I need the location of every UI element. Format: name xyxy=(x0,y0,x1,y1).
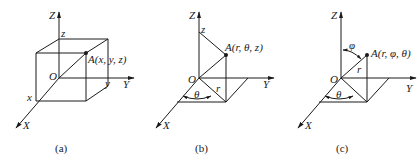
z-axis-label: Z xyxy=(331,9,338,21)
y-tick-label: y xyxy=(104,77,110,89)
caption-a: (a) xyxy=(55,142,68,155)
point-a-label: A(x, y, z) xyxy=(87,53,127,66)
point-a-label: A(r, φ, θ) xyxy=(370,47,411,60)
origin-label: O xyxy=(49,70,57,82)
phi-label: φ xyxy=(349,39,355,51)
point-a-marker xyxy=(224,53,228,57)
theta-label: θ xyxy=(194,88,200,100)
caption-c: (c) xyxy=(336,142,349,155)
phi-arc xyxy=(343,50,361,59)
y-axis-label: Y xyxy=(123,78,131,90)
z-tick-label: z xyxy=(200,23,206,35)
radius-label: r xyxy=(357,63,362,75)
z-axis-label: Z xyxy=(189,9,196,21)
panel-cylindrical: Z z A(r, θ, z) O r θ Y X (b) xyxy=(156,9,274,155)
position-vector xyxy=(59,53,86,78)
y-axis-label: Y xyxy=(406,82,414,94)
x-axis-label: X xyxy=(22,119,31,131)
origin-label: O xyxy=(188,73,196,85)
point-a-label: A(r, θ, z) xyxy=(224,41,263,54)
x-tick-label: x xyxy=(26,91,32,103)
theta-label: θ xyxy=(336,88,342,100)
z-axis-label: Z xyxy=(49,9,56,21)
origin-label: O xyxy=(330,73,338,85)
x-axis-label: X xyxy=(304,119,313,131)
point-a-marker xyxy=(365,53,369,57)
caption-b: (b) xyxy=(195,142,208,155)
panel-spherical: Z φ A(r, φ, θ) r O θ Y X (c) xyxy=(298,9,416,155)
panel-cartesian: Z z A(x, y, z) O y Y x X (a) xyxy=(16,9,134,155)
radius-label: r xyxy=(216,82,221,94)
y-axis-label: Y xyxy=(263,78,271,90)
radius-line xyxy=(341,55,367,78)
x-axis-label: X xyxy=(162,119,171,131)
z-tick-label: z xyxy=(60,27,66,39)
coordinate-systems-figure: Z z A(x, y, z) O y Y x X (a) Z z A(r, θ,… xyxy=(0,0,420,161)
